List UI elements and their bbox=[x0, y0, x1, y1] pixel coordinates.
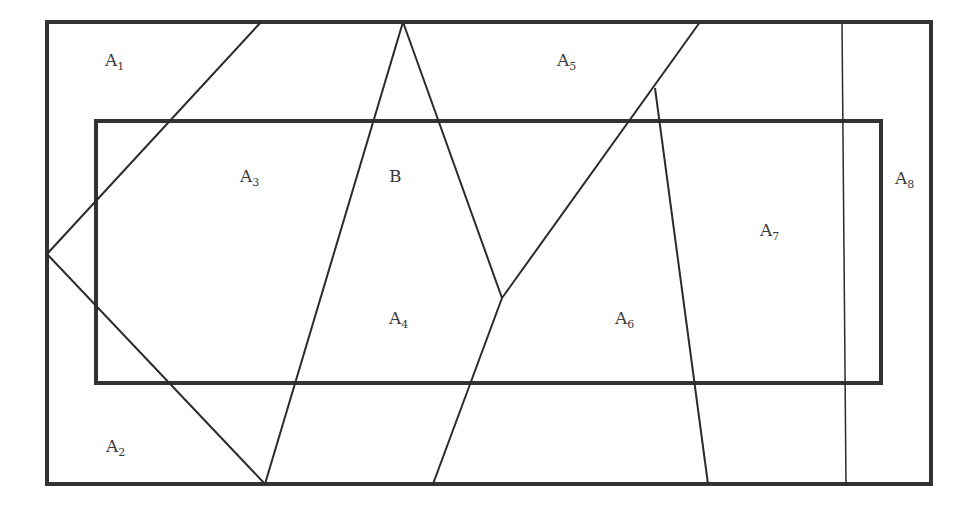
region-label-a2: A2 bbox=[105, 436, 125, 459]
partition-line-b-a5 bbox=[403, 22, 502, 298]
partition-line-a3-a4 bbox=[265, 22, 403, 484]
partition-line-a5-a6 bbox=[502, 22, 700, 298]
region-label-a1: A1 bbox=[104, 50, 124, 73]
partition-line-a2-a3 bbox=[47, 254, 265, 484]
partition-line-a7-a8 bbox=[842, 22, 846, 484]
region-label-a3: A3 bbox=[239, 166, 259, 189]
partition-line-a1-a3 bbox=[47, 22, 261, 254]
region-label-a6: A6 bbox=[614, 308, 634, 331]
partition-diagram: A1 A2 A3 B A4 A5 A6 A7 A8 bbox=[0, 0, 975, 514]
partition-line-a6-a7 bbox=[655, 88, 708, 484]
event-b-rectangle bbox=[96, 121, 881, 383]
partition-line-a4-a6 bbox=[433, 298, 502, 484]
region-label-b: B bbox=[389, 166, 402, 186]
region-label-a5: A5 bbox=[556, 50, 576, 73]
region-label-a8: A8 bbox=[894, 168, 914, 191]
region-label-a4: A4 bbox=[388, 308, 408, 331]
region-label-a7: A7 bbox=[759, 220, 779, 243]
outer-rectangle bbox=[47, 22, 931, 484]
